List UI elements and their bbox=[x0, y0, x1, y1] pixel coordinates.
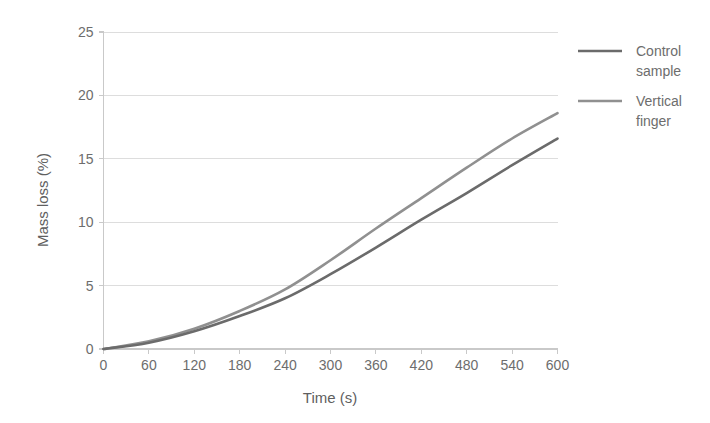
axis-lines-group bbox=[99, 32, 558, 354]
line-chart: 0510152025 06012018024030036042048054060… bbox=[0, 0, 710, 423]
y-axis-title: Mass loss (%) bbox=[34, 153, 51, 247]
series-line-1 bbox=[104, 139, 558, 349]
legend-label-2-line1: Vertical bbox=[636, 93, 682, 109]
y-tick-label-5: 5 bbox=[86, 278, 94, 294]
y-tick-label-0: 0 bbox=[86, 341, 94, 357]
x-tick-label-600: 600 bbox=[546, 357, 570, 373]
series-line-2 bbox=[104, 113, 558, 349]
series-group bbox=[104, 113, 558, 349]
x-tick-label-480: 480 bbox=[455, 357, 479, 373]
legend-label-1-line1: Control bbox=[636, 43, 681, 59]
y-tick-label-25: 25 bbox=[78, 24, 94, 40]
y-tick-labels-group: 0510152025 bbox=[78, 24, 94, 357]
y-tick-label-20: 20 bbox=[78, 87, 94, 103]
x-tick-label-420: 420 bbox=[410, 357, 434, 373]
x-tick-labels-group: 060120180240300360420480540600 bbox=[100, 357, 570, 373]
legend-label-1-line2: sample bbox=[636, 63, 681, 79]
y-tick-label-10: 10 bbox=[78, 214, 94, 230]
x-axis-title: Time (s) bbox=[303, 389, 357, 406]
x-tick-label-300: 300 bbox=[319, 357, 343, 373]
y-tick-label-15: 15 bbox=[78, 151, 94, 167]
x-tick-label-0: 0 bbox=[100, 357, 108, 373]
x-tick-label-360: 360 bbox=[364, 357, 388, 373]
x-tick-label-240: 240 bbox=[273, 357, 297, 373]
x-tick-label-180: 180 bbox=[228, 357, 252, 373]
gridlines-group bbox=[104, 32, 558, 286]
legend-group: ControlsampleVerticalfinger bbox=[578, 43, 682, 129]
x-tick-label-120: 120 bbox=[183, 357, 207, 373]
x-tick-label-540: 540 bbox=[500, 357, 524, 373]
chart-canvas: 0510152025 06012018024030036042048054060… bbox=[0, 0, 710, 423]
legend-label-2-line2: finger bbox=[636, 113, 671, 129]
x-tick-label-60: 60 bbox=[141, 357, 157, 373]
